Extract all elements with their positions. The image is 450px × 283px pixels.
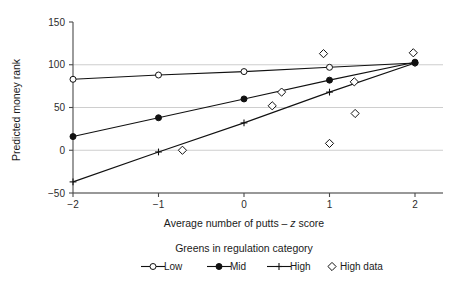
x-axis-title-prefix: Average number of putts – <box>164 217 290 229</box>
x-tick-labels: −2−1012 <box>67 199 418 210</box>
data-point-0-0 <box>70 76 76 82</box>
legend-title: Greens in regulation category <box>175 242 313 254</box>
legend-label-high: High <box>290 261 311 272</box>
scatter-point-4 <box>325 139 333 147</box>
x-tick-label-0: 0 <box>241 199 247 210</box>
data-point-0-2 <box>241 69 247 75</box>
legend-marker-low <box>150 264 156 270</box>
scatter-point-3 <box>319 50 327 58</box>
y-tick-label-100: 100 <box>48 59 65 70</box>
legend-label-mid: Mid <box>230 261 246 272</box>
chart-figure: −50050100150 −2−1012 Predicted money ran… <box>0 0 450 283</box>
legend-item-low[interactable]: Low <box>141 261 183 272</box>
scatter-point-0 <box>178 146 186 154</box>
legend-item-high[interactable]: High <box>267 261 311 272</box>
y-tick-label-0: 0 <box>59 145 65 156</box>
x-tick-label-2: 2 <box>412 199 418 210</box>
y-tick-labels: −50050100150 <box>48 17 65 199</box>
data-point-1-3 <box>327 77 333 83</box>
gridlines <box>73 65 443 193</box>
data-point-2-0 <box>70 178 77 185</box>
x-axis-title: Average number of putts – z score <box>164 217 324 229</box>
data-point-1-2 <box>241 96 247 102</box>
scatter-line-chart: −50050100150 −2−1012 Predicted money ran… <box>0 0 450 283</box>
scatter-point-1 <box>268 102 276 110</box>
y-axis-title: Predicted money rank <box>10 58 22 161</box>
legend-item-high-data[interactable]: High data <box>328 261 383 272</box>
series-layer <box>70 59 419 185</box>
y-tick-label-150: 150 <box>48 17 65 28</box>
legend[interactable]: LowMidHighHigh data <box>141 261 383 272</box>
scatter-point-7 <box>409 49 417 57</box>
x-tick-label--2: −2 <box>67 199 79 210</box>
y-tick-label-50: 50 <box>54 102 66 113</box>
legend-marker-mid <box>216 264 222 270</box>
x-axis-title-suffix: score <box>296 217 325 229</box>
data-point-2-1 <box>155 149 162 156</box>
data-point-2-3 <box>326 89 333 96</box>
data-point-2-2 <box>241 119 248 126</box>
scatter-point-2 <box>278 88 286 96</box>
series-low <box>70 60 418 82</box>
tick-marks <box>69 22 415 197</box>
y-tick-label--50: −50 <box>48 188 65 199</box>
legend-label-high-data: High data <box>340 261 383 272</box>
data-point-1-0 <box>70 134 76 140</box>
legend-marker-high-data <box>328 262 336 270</box>
x-tick-label--1: −1 <box>153 199 165 210</box>
x-tick-label-1: 1 <box>327 199 333 210</box>
data-point-1-1 <box>156 115 162 121</box>
legend-marker-high <box>276 263 283 270</box>
legend-label-low: Low <box>164 261 183 272</box>
data-point-0-1 <box>156 72 162 78</box>
data-point-0-3 <box>327 64 333 70</box>
series-high <box>70 60 419 186</box>
scatter-point-6 <box>351 109 359 117</box>
legend-item-mid[interactable]: Mid <box>207 261 246 272</box>
